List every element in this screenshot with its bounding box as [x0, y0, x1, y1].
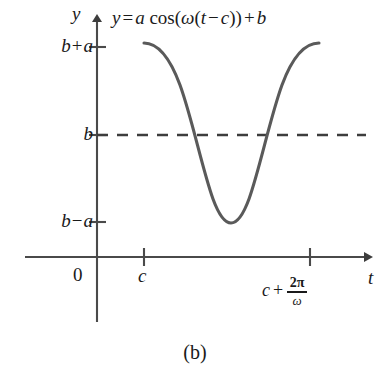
- equation-amplitude: a: [135, 7, 145, 28]
- period-fraction: 2πω: [287, 276, 307, 307]
- y-tick-a-term-bot: a: [84, 210, 94, 231]
- y-tick-b-term-top: b: [61, 35, 71, 56]
- y-axis-label: y: [72, 4, 80, 23]
- equation-label: y=a cos(ω(t−c))+b: [112, 8, 266, 27]
- y-tick-a-term-top: a: [84, 35, 94, 56]
- equation-offset: b: [257, 7, 267, 28]
- equation-cos: cos: [149, 7, 174, 28]
- t-axis-label: t: [368, 268, 373, 287]
- cosine-curve: [144, 43, 319, 223]
- origin-label: 0: [73, 265, 83, 284]
- equation-shift: c: [221, 7, 229, 28]
- cosine-graph-figure: y=a cos(ω(t−c))+b y t b+a b b−a 0 c c+2π…: [0, 0, 390, 375]
- equation-omega: ω: [181, 7, 194, 28]
- y-tick-op-bot: −: [71, 210, 84, 231]
- x-tick-label-c: c: [138, 266, 146, 285]
- y-tick-label-b: b: [84, 124, 94, 143]
- y-tick-label-b-plus-a: b+a: [61, 36, 93, 55]
- equation-equals: =: [120, 7, 135, 28]
- equation-minus: −: [206, 7, 221, 28]
- figure-caption: (b): [0, 342, 390, 362]
- equation-plus: +: [242, 7, 257, 28]
- x-tick-period-plus: +: [270, 281, 286, 299]
- x-tick-label-c-plus-period: c+2πω: [262, 275, 308, 306]
- plot-canvas: [0, 0, 390, 375]
- y-tick-op-top: +: [71, 35, 84, 56]
- y-tick-b-term-bot: b: [61, 210, 71, 231]
- period-numerator: 2π: [288, 276, 307, 291]
- y-tick-label-b-minus-a: b−a: [61, 211, 93, 230]
- period-denominator: ω: [291, 293, 304, 307]
- y-tick-b-term-mid: b: [84, 123, 94, 144]
- equation-close-paren: ): [236, 7, 242, 28]
- x-tick-period-lead: c: [262, 281, 270, 299]
